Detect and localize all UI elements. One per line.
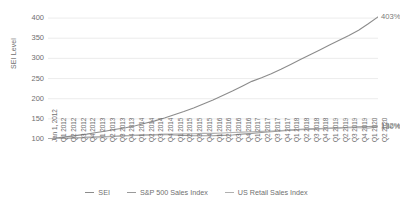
x-axis-tick-label: Q4 2012 — [89, 118, 96, 142]
legend-swatch-sei — [85, 192, 94, 193]
x-axis-tick-label: Q4 2017 — [284, 118, 291, 142]
x-axis-tick-label: Q2 2014 — [148, 118, 155, 142]
x-axis-tick-label: Q2 2019 — [342, 118, 349, 142]
x-axis-tick-label: Q3 2016 — [235, 118, 242, 142]
chart-legend: SEI S&P 500 Sales Index US Retail Sales … — [0, 188, 393, 197]
x-axis-tick-label: Q3 2018 — [313, 118, 320, 142]
series-end-label-0: 403% — [381, 12, 400, 21]
legend-item-us-retail[interactable]: US Retail Sales Index — [225, 188, 308, 197]
legend-item-sei[interactable]: SEI — [85, 188, 110, 197]
y-axis-title: SEI Level — [10, 19, 17, 89]
y-axis-tick-label: 100 — [18, 135, 44, 143]
x-axis-tick-label: Q4 2015 — [206, 118, 213, 142]
legend-swatch-sp500 — [127, 192, 136, 193]
x-axis-tick-label: Q4 2018 — [322, 118, 329, 142]
x-axis-tick-label: Q3 2013 — [119, 118, 126, 142]
x-axis-tick-label: Q1 2020 — [371, 118, 378, 142]
x-axis-tick-label: Q3 2012 — [80, 118, 87, 142]
x-axis-tick-label: Q2 2012 — [70, 118, 77, 142]
legend-swatch-us-retail — [225, 192, 234, 193]
legend-label-sp500: S&P 500 Sales Index — [140, 188, 208, 197]
x-axis-tick-label: Q3 2019 — [351, 118, 358, 142]
x-axis-tick-label: Q1 2012 — [60, 118, 67, 142]
y-axis-tick-label: 400 — [18, 14, 44, 22]
x-axis-tick-label: Q1 2015 — [177, 118, 184, 142]
x-axis-tick-label: Q2 2016 — [225, 118, 232, 142]
y-axis-tick-label: 300 — [18, 54, 44, 62]
x-axis-tick-label: Q1 2014 — [138, 118, 145, 142]
series-end-label-2: 130% — [381, 122, 400, 131]
x-axis-tick-label: Q4 2016 — [245, 118, 252, 142]
y-axis-tick-label: 150 — [18, 115, 44, 123]
x-axis-tick-label: Q3 2015 — [196, 118, 203, 142]
x-axis-tick-label: Q2 2015 — [186, 118, 193, 142]
x-axis-tick-label: Q2 2017 — [264, 118, 271, 142]
x-axis-tick-label: Q1 2017 — [254, 118, 261, 142]
legend-label-sei: SEI — [98, 188, 110, 197]
x-axis-tick-label: Q3 2014 — [157, 118, 164, 142]
x-axis-tick-label: Q1 2013 — [99, 118, 106, 142]
x-axis-tick-label: Q4 2013 — [128, 118, 135, 142]
x-axis-tick-label: Q4 2014 — [167, 118, 174, 142]
x-axis-tick-label: Q3 2017 — [274, 118, 281, 142]
x-axis-tick-label: Q2 2013 — [109, 118, 116, 142]
legend-item-sp500[interactable]: S&P 500 Sales Index — [127, 188, 208, 197]
x-axis-tick-label: Jan 1, 2012 — [51, 109, 58, 142]
x-axis-tick-label: Q1 2019 — [332, 118, 339, 142]
y-axis-tick-label: 350 — [18, 34, 44, 42]
x-axis-tick-label: Q1 2018 — [293, 118, 300, 142]
legend-label-us-retail: US Retail Sales Index — [238, 188, 308, 197]
x-axis-tick-label: Q2 2018 — [303, 118, 310, 142]
x-axis-tick-label: Q4 2019 — [361, 118, 368, 142]
y-axis-tick-label: 250 — [18, 75, 44, 83]
x-axis-tick-label: Q1 2016 — [216, 118, 223, 142]
y-axis-tick-label: 200 — [18, 95, 44, 103]
